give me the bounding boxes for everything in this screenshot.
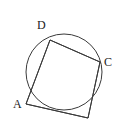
- edge-ad: [26, 40, 50, 104]
- vertex-label-c: C: [104, 56, 112, 68]
- vertex-label-a: A: [13, 98, 22, 110]
- edge-cb: [88, 62, 100, 118]
- vertex-label-d: D: [37, 19, 46, 31]
- figure-canvas: D C A: [0, 0, 121, 120]
- edge-ba: [26, 104, 88, 118]
- circumcircle: [26, 34, 102, 110]
- edge-dc: [50, 40, 100, 62]
